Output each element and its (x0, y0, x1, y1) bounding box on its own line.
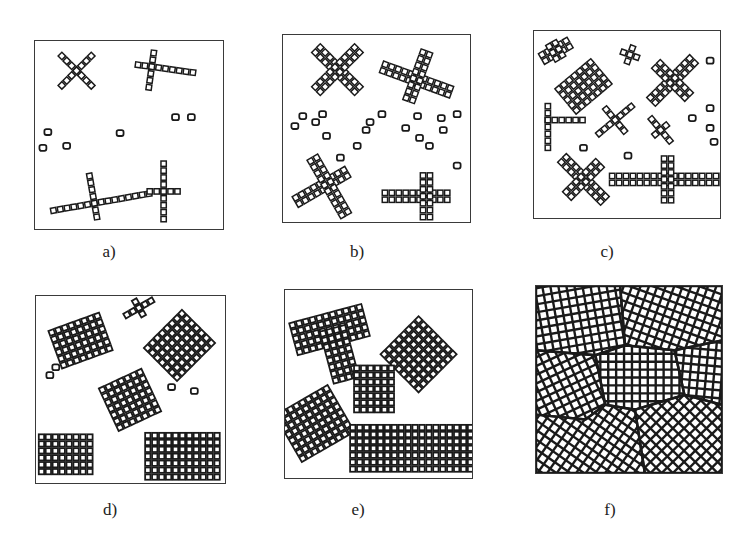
panel-d (35, 295, 226, 484)
panel-e (284, 289, 473, 479)
grain (294, 35, 380, 113)
grain (354, 365, 394, 412)
panel-b (282, 34, 471, 223)
panel-label-e: e) (338, 500, 378, 520)
nucleus (44, 129, 51, 135)
grain (132, 48, 198, 96)
nucleus (367, 119, 374, 125)
nucleus (580, 145, 587, 151)
grain (350, 425, 472, 472)
grain (545, 141, 621, 217)
nucleus (323, 133, 330, 139)
grain (99, 369, 161, 431)
panel-f (535, 285, 723, 474)
panel-c (533, 30, 721, 219)
nucleus (440, 127, 447, 133)
panel-label-b: b) (337, 242, 377, 262)
nucleus (707, 125, 714, 131)
nucleus (354, 143, 361, 149)
nucleus (63, 143, 70, 149)
panel-a (34, 40, 224, 230)
nucleus (402, 125, 409, 131)
nucleus (363, 127, 370, 133)
nucleus (117, 130, 124, 136)
grain (285, 385, 354, 462)
grain-structure-f (536, 286, 722, 473)
nucleus (52, 364, 59, 370)
nucleus (711, 139, 718, 145)
nucleus (454, 163, 461, 169)
nucleus (46, 372, 53, 378)
grain-structure-e (285, 290, 472, 478)
nucleus (625, 153, 632, 159)
panel-label-c: c) (587, 242, 627, 262)
grain (537, 34, 575, 67)
grain (555, 59, 612, 114)
grain (46, 163, 155, 227)
grain (147, 161, 180, 222)
panel-label-d: d) (90, 500, 130, 520)
grain (382, 173, 450, 220)
grain (283, 145, 366, 222)
grain (48, 313, 112, 369)
nucleus (426, 143, 433, 149)
nucleus (291, 123, 298, 129)
grain-structure-a (35, 41, 223, 229)
nucleus (454, 111, 461, 117)
nucleus (299, 113, 306, 119)
grain-structure-b (283, 35, 470, 222)
grain (373, 38, 462, 114)
grain (587, 92, 644, 147)
nucleus (319, 111, 326, 117)
nucleus (168, 384, 175, 390)
grain (634, 42, 710, 118)
nucleus (438, 115, 445, 121)
grain (643, 111, 679, 149)
nucleus (416, 135, 423, 141)
grain (120, 296, 158, 324)
grain-structure-d (36, 296, 225, 483)
nucleus (39, 145, 46, 151)
nucleus (378, 111, 385, 117)
grain (609, 156, 720, 203)
grain (43, 41, 109, 104)
nucleus (414, 113, 421, 119)
nucleus (707, 105, 714, 111)
nucleus (188, 114, 195, 120)
grain (144, 310, 215, 381)
nucleus (172, 114, 179, 120)
grain (145, 433, 220, 480)
panel-label-a: a) (89, 242, 129, 262)
panel-label-f: f) (590, 500, 630, 520)
nucleus (191, 388, 198, 394)
nucleus (689, 115, 696, 121)
nucleus (337, 155, 344, 161)
nucleus (707, 58, 714, 64)
grain-structure-c (534, 31, 720, 218)
grain (618, 42, 643, 67)
grain (39, 434, 93, 474)
nucleus (312, 119, 319, 125)
